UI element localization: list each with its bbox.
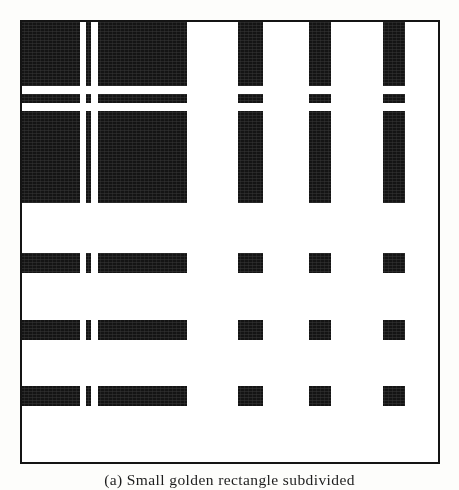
grid-cell [20,273,80,320]
grid-cell [405,203,440,253]
grid-cell [238,103,263,111]
grid-cell [309,94,331,103]
grid-cell [263,253,309,273]
grid-cell [309,386,331,406]
grid-cell [331,94,383,103]
grid-cell [331,86,383,94]
grid-cell [263,103,309,111]
figure-caption: (a) Small golden rectangle subdivided [0,470,459,490]
grid-cell [405,406,440,464]
grid-cell [383,273,405,320]
grid-cell [91,86,98,94]
grid-cell [98,253,187,273]
grid-cell [309,406,331,464]
grid-cell [187,20,238,86]
grid-cell [187,386,238,406]
grid-cell [383,406,405,464]
grid-cell [309,253,331,273]
grid-cell [383,86,405,94]
grid-cell [98,273,187,320]
grid-cell [238,86,263,94]
grid-cell [187,253,238,273]
grid-cell [331,253,383,273]
grid-cell [238,20,263,86]
grid-cell [405,340,440,386]
grid-cell [98,320,187,340]
grid-cell [187,94,238,103]
grid-cell [309,86,331,94]
grid-cell [187,86,238,94]
grid-cell [238,94,263,103]
grid-cell [238,253,263,273]
grid-cell [91,103,98,111]
grid-cell [238,273,263,320]
grid-cell [98,386,187,406]
grid-cell [238,320,263,340]
grid-cell [405,86,440,94]
grid-cell [263,111,309,203]
grid-cell [187,203,238,253]
grid-cell [238,111,263,203]
grid-cell [405,386,440,406]
grid-cell [20,406,80,464]
grid-cell [383,203,405,253]
subdivision-grid [20,20,440,464]
grid-cell [405,273,440,320]
grid-cell [405,253,440,273]
grid-cell [20,94,80,103]
grid-cell [405,103,440,111]
grid-cell [383,253,405,273]
grid-cell [98,111,187,203]
grid-cell [383,320,405,340]
grid-cell [383,20,405,86]
grid-cell [263,203,309,253]
grid-cell [187,320,238,340]
grid-cell [238,406,263,464]
grid-cell [263,273,309,320]
grid-cell [405,320,440,340]
grid-cell [20,320,80,340]
grid-cell [331,20,383,86]
grid-cell [309,273,331,320]
grid-cell [20,203,80,253]
grid-cell [91,94,98,103]
grid-cell [98,86,187,94]
grid-cell [331,320,383,340]
grid-cell [405,20,440,86]
grid-cell [331,103,383,111]
grid-cell [98,94,187,103]
grid-cell [263,94,309,103]
grid-cell [263,386,309,406]
subdivision-plate [20,20,440,464]
figure-caption-text: (a) Small golden rectangle subdivided [104,470,355,490]
grid-cell [309,203,331,253]
grid-cell [91,253,98,273]
grid-cell [263,406,309,464]
grid-cell [383,94,405,103]
grid-cell [263,20,309,86]
grid-cell [238,340,263,386]
grid-cell [405,111,440,203]
grid-cell [20,20,80,86]
grid-cell [91,20,98,86]
grid-cell [20,111,80,203]
grid-cell [238,386,263,406]
grid-cell [187,340,238,386]
grid-cell [309,340,331,386]
grid-cell [91,406,98,464]
grid-cell [20,386,80,406]
grid-cell [383,103,405,111]
grid-cell [91,340,98,386]
grid-cell [405,94,440,103]
grid-cell [187,406,238,464]
grid-cell [98,406,187,464]
grid-cell [383,386,405,406]
grid-cell [91,386,98,406]
grid-cell [331,203,383,253]
grid-cell [20,103,80,111]
grid-cell [309,20,331,86]
grid-cell [309,103,331,111]
grid-cell [20,86,80,94]
grid-cell [20,253,80,273]
grid-cell [98,340,187,386]
